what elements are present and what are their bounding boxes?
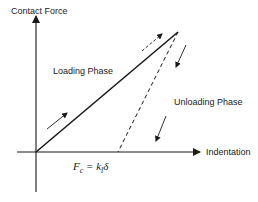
- unloading-arrow-bottom-icon: [156, 116, 166, 141]
- loading-arrow-icon: [47, 113, 67, 129]
- unloading-arrow-top-icon: [176, 45, 186, 67]
- x-axis-label: Indentation: [206, 147, 251, 157]
- loading-phase-label: Loading Phase: [53, 66, 113, 76]
- unloading-line: [118, 32, 178, 152]
- loading-line: [36, 32, 178, 152]
- y-axis-label: Contact Force: [11, 6, 68, 16]
- unloading-phase-label: Unloading Phase: [174, 97, 243, 107]
- equation-label: Fc = klδ: [73, 160, 108, 175]
